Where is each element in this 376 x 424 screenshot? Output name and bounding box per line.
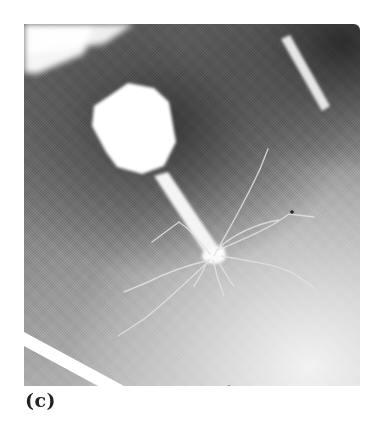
- top-left-artifact: [24, 24, 134, 74]
- phage-illustration: [24, 24, 360, 386]
- figure: (c): [0, 0, 376, 424]
- bottom-left-stripe: [24, 332, 124, 386]
- phage-tail: [154, 172, 226, 264]
- electron-micrograph: [24, 24, 360, 386]
- debris-speck: [290, 210, 294, 214]
- tail-fibers: [118, 149, 316, 336]
- panel-label: (c): [25, 389, 56, 411]
- phage-head: [92, 83, 176, 174]
- scale-bar-rod: [281, 35, 330, 111]
